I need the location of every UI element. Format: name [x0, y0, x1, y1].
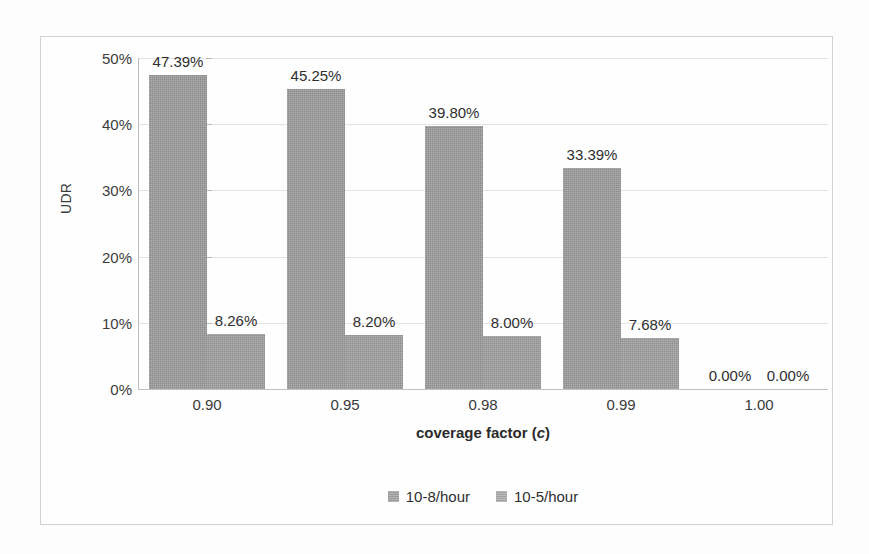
bar-value-label: 7.68% [629, 316, 672, 333]
y-axis-title: UDR [58, 183, 74, 214]
bar-group [690, 58, 828, 389]
legend-item[interactable]: 10-8/hour [388, 488, 470, 505]
chart-legend: 10-8/hour10-5/hour [138, 484, 828, 508]
bar-groups: 47.39%8.26%45.25%8.20%39.80%8.00%33.39%7… [138, 58, 828, 389]
legend-item[interactable]: 10-5/hour [496, 488, 578, 505]
x-axis-title: coverage factor (c) [138, 424, 828, 441]
y-tick-label: 40% [78, 117, 132, 132]
bar [425, 126, 483, 389]
x-tick-label: 1.00 [744, 396, 773, 413]
y-tick-label: 10% [78, 315, 132, 330]
bar-value-label: 0.00% [709, 367, 752, 384]
bar-group [276, 58, 414, 389]
x-tick-label: 0.98 [468, 396, 497, 413]
bar-value-label: 39.80% [429, 104, 480, 121]
bar-value-label: 33.39% [567, 146, 618, 163]
bar [287, 89, 345, 389]
legend-label: 10-8/hour [406, 488, 470, 505]
x-axis-title-symbol: c [537, 424, 545, 441]
bar-value-label: 0.00% [767, 367, 810, 384]
bar-group [552, 58, 690, 389]
legend-swatch-icon [388, 491, 399, 502]
y-tick-label: 30% [78, 183, 132, 198]
bar-group [138, 58, 276, 389]
bar-value-label: 8.00% [491, 314, 534, 331]
x-axis-ticks: 0.900.950.980.991.00 [138, 396, 828, 422]
bar-value-label: 45.25% [291, 67, 342, 84]
bar [483, 336, 541, 389]
y-axis-ticks: 0%10%20%30%40%50% [74, 58, 132, 389]
x-axis-title-paren: ) [545, 424, 550, 441]
x-tick-label: 0.99 [606, 396, 635, 413]
y-tick-label: 0% [78, 382, 132, 397]
x-axis-line [138, 389, 828, 390]
bar-value-label: 47.39% [153, 53, 204, 70]
bar [207, 334, 265, 389]
chart-figure: 0%10%20%30%40%50% UDR 47.39%8.26%45.25%8… [0, 0, 869, 554]
x-tick-label: 0.95 [330, 396, 359, 413]
bar [149, 75, 207, 389]
bar-value-label: 8.26% [215, 312, 258, 329]
bar [345, 335, 403, 389]
y-tick-label: 20% [78, 249, 132, 264]
x-tick-label: 0.90 [192, 396, 221, 413]
bar-value-label: 8.20% [353, 313, 396, 330]
legend-swatch-icon [496, 491, 507, 502]
legend-label: 10-5/hour [514, 488, 578, 505]
bar [621, 338, 679, 389]
x-axis-title-text: coverage factor ( [416, 424, 537, 441]
y-tick-label: 50% [78, 51, 132, 66]
bar [563, 168, 621, 389]
